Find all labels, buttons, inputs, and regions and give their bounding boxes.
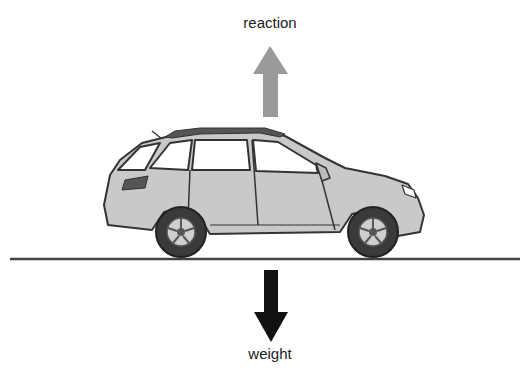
front-wheel-icon: [348, 207, 398, 257]
weight-arrow-icon: [254, 270, 288, 342]
rear-wheel-icon: [156, 207, 206, 257]
force-diagram: [0, 0, 521, 373]
reaction-arrow-icon: [253, 46, 288, 117]
